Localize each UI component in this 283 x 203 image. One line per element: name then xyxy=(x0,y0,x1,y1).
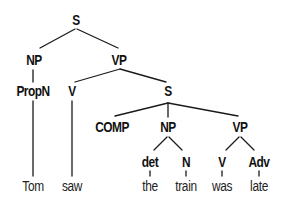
node-vp-main: VP xyxy=(112,53,127,67)
edge-vp_emb-v_emb xyxy=(226,137,239,150)
edge-s_root-np_subj xyxy=(40,29,75,48)
node-propn: PropN xyxy=(16,84,49,98)
node-np-embedded: NP xyxy=(160,120,176,134)
leaf-word-the: the xyxy=(142,179,158,193)
edge-np_emb-det xyxy=(154,137,167,150)
node-vp-embedded: VP xyxy=(233,120,248,134)
node-np-subject: NP xyxy=(26,53,42,67)
edge-vp_main-s_emb xyxy=(120,69,166,82)
node-s-root: S xyxy=(72,13,79,27)
syntax-tree-edges xyxy=(0,0,283,203)
leaf-word-saw: saw xyxy=(62,179,82,193)
node-v-main: V xyxy=(68,84,75,98)
edge-s_emb-comp xyxy=(115,103,168,116)
edge-vp_emb-adv xyxy=(241,137,254,150)
edge-vp_main-v_main xyxy=(75,69,120,82)
leaf-word-was: was xyxy=(212,179,232,193)
node-s-embedded: S xyxy=(164,84,171,98)
edge-s_root-vp_main xyxy=(77,29,118,48)
leaf-word-train: train xyxy=(175,179,196,193)
node-v-embedded: V xyxy=(218,155,225,169)
leaf-word-late: late xyxy=(250,179,268,193)
node-comp: COMP xyxy=(95,120,129,134)
node-n: N xyxy=(182,155,190,169)
node-adv: Adv xyxy=(249,155,270,169)
leaf-word-tom: Tom xyxy=(22,179,43,193)
edge-s_emb-vp_emb xyxy=(168,103,238,116)
node-det: det xyxy=(142,155,158,169)
edge-np_emb-n xyxy=(169,137,182,150)
